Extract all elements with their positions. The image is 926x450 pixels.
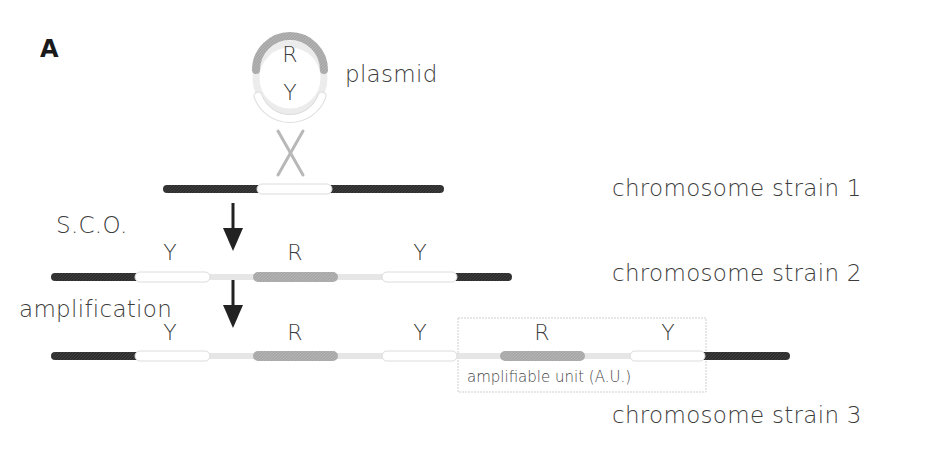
- strain-2-gene-label: R: [280, 242, 310, 264]
- panel-label: A: [40, 37, 59, 61]
- chromosome-strain-3: [51, 351, 790, 361]
- strain-3-gene-label: Y: [653, 322, 683, 344]
- arrow-down-icon: [223, 203, 243, 251]
- chromosome-strain-1: [163, 184, 444, 194]
- strain-3-gene-label: Y: [155, 322, 185, 344]
- strain-1-label: chromosome strain 1: [612, 177, 862, 200]
- strain-3-gene-label: R: [280, 322, 310, 344]
- strain-2-gene-label: Y: [155, 242, 185, 264]
- amplification-label: amplification: [19, 298, 172, 321]
- amplifiable-unit-label: amplifiable unit (A.U.): [467, 370, 631, 385]
- sco-label: S.C.O.: [56, 214, 128, 237]
- strain-2-label: chromosome strain 2: [612, 262, 862, 285]
- plasmid-gene-y: Y: [275, 82, 305, 104]
- plasmid-label: plasmid: [345, 63, 438, 86]
- strain-3-gene-label: R: [527, 322, 557, 344]
- strain-3-label: chromosome strain 3: [612, 404, 862, 427]
- crossover-icon: [278, 131, 303, 175]
- diagram-canvas: [0, 0, 926, 450]
- strain-2-gene-label: Y: [405, 242, 435, 264]
- arrow-down-icon: [223, 280, 243, 328]
- strain-3-gene-label: Y: [405, 322, 435, 344]
- chromosome-strain-2: [51, 272, 512, 282]
- plasmid-gene-r: R: [275, 44, 305, 66]
